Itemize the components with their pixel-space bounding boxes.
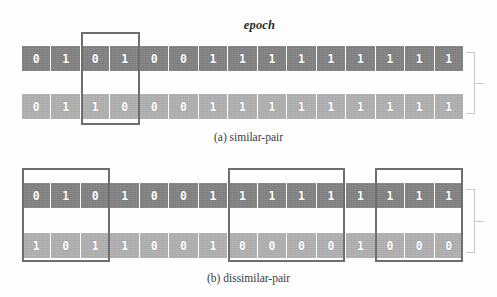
bit-cell: 1 <box>199 183 228 208</box>
bit-cell: 1 <box>287 46 316 71</box>
bit-cell: 0 <box>169 233 198 258</box>
bit-cell: 0 <box>22 94 51 119</box>
bit-cell: 0 <box>140 233 169 258</box>
caption-similar-pair: (a) similar-pair <box>0 131 497 143</box>
bit-cell: 1 <box>346 233 375 258</box>
bit-cell: 1 <box>405 94 434 119</box>
bit-cell: 0 <box>140 46 169 71</box>
bit-cell: 1 <box>228 46 257 71</box>
brace-tick-middle-b <box>474 221 484 222</box>
bit-cell: 1 <box>199 94 228 119</box>
bit-cell: 1 <box>346 94 375 119</box>
bit-cell: 1 <box>228 94 257 119</box>
bit-cell: 1 <box>110 183 139 208</box>
bit-cell: 1 <box>287 94 316 119</box>
brace-tick-bottom-a <box>466 113 475 114</box>
brace-tick-middle-a <box>474 83 484 84</box>
panel-similar-pair: 010100111111111 011000111111111 (a) simi… <box>0 0 497 150</box>
bit-cell: 0 <box>169 94 198 119</box>
bit-cell: 1 <box>346 46 375 71</box>
mismatch-region-1-b[interactable] <box>22 168 110 262</box>
bit-cell: 1 <box>51 94 80 119</box>
bit-cell: 0 <box>169 183 198 208</box>
bit-cell: 1 <box>346 183 375 208</box>
bit-cell: 1 <box>51 46 80 71</box>
bit-cell: 1 <box>258 94 287 119</box>
bit-cell: 1 <box>199 46 228 71</box>
figure-hash-code-comparison: epoch 010100111111111 011000111111111 (a… <box>0 0 497 297</box>
bit-cell: 0 <box>140 183 169 208</box>
bit-cell: 1 <box>258 46 287 71</box>
panel-dissimilar-pair: 010100111111111 101100100001000 (b) diss… <box>0 150 497 297</box>
bit-cell: 1 <box>376 46 405 71</box>
bit-cell: 1 <box>317 94 346 119</box>
brace-tick-bottom-b <box>466 252 475 253</box>
bit-cell: 0 <box>140 94 169 119</box>
caption-dissimilar-pair: (b) dissimilar-pair <box>0 272 497 284</box>
bit-cell: 1 <box>376 94 405 119</box>
bit-cell: 1 <box>435 94 463 119</box>
bit-cell: 1 <box>317 46 346 71</box>
bit-cell: 0 <box>169 46 198 71</box>
bit-cell: 1 <box>199 233 228 258</box>
mismatch-region-2-b[interactable] <box>228 168 346 262</box>
bit-cell: 1 <box>435 46 463 71</box>
bit-cell: 1 <box>405 46 434 71</box>
mismatch-region-1-a[interactable] <box>81 32 140 125</box>
mismatch-region-3-b[interactable] <box>375 168 463 262</box>
bit-cell: 1 <box>110 233 139 258</box>
bit-cell: 0 <box>22 46 51 71</box>
